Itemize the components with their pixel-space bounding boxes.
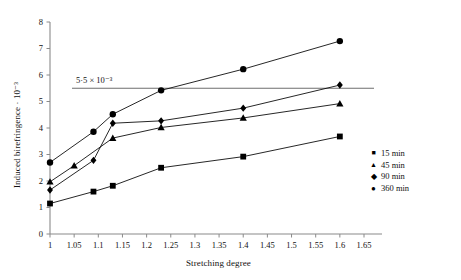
data-point-square bbox=[158, 165, 164, 171]
data-point-circle bbox=[158, 87, 164, 93]
y-axis-tick-label: 5 bbox=[29, 96, 43, 106]
diamond-marker-icon: ◆ bbox=[368, 171, 379, 183]
y-axis-tick-label: 3 bbox=[29, 149, 43, 159]
square-marker-icon: ■ bbox=[368, 148, 379, 160]
legend-item-360-min: ●360 min bbox=[368, 183, 409, 195]
data-point-circle bbox=[110, 111, 116, 117]
x-axis-tick-label: 1.65 bbox=[349, 240, 379, 250]
y-axis-tick-label: 1 bbox=[29, 202, 43, 212]
data-point-triangle bbox=[71, 162, 78, 168]
data-point-square bbox=[91, 189, 97, 195]
legend-item-45-min: ▲45 min bbox=[368, 160, 409, 172]
data-point-square bbox=[47, 201, 53, 207]
data-point-square bbox=[337, 134, 343, 140]
y-axis-title: Induced birefringence · 10⁻³ bbox=[12, 50, 22, 220]
legend-item-15-min: ■15 min bbox=[368, 148, 409, 160]
legend-item-label: 45 min bbox=[379, 160, 405, 172]
legend-item-label: 90 min bbox=[379, 171, 405, 183]
data-point-diamond bbox=[158, 117, 164, 124]
data-point-square bbox=[110, 183, 116, 189]
legend-item-90-min: ◆90 min bbox=[368, 171, 409, 183]
data-point-circle bbox=[90, 129, 96, 135]
chart-figure: Induced birefringence · 10⁻³ Stretching … bbox=[0, 0, 461, 280]
circle-marker-icon: ● bbox=[368, 183, 379, 195]
data-point-circle bbox=[337, 38, 343, 44]
series-line-360-min bbox=[50, 41, 340, 162]
data-point-diamond bbox=[91, 157, 97, 164]
reference-line-label: 5·5 × 10⁻³ bbox=[76, 75, 112, 85]
triangle-marker-icon: ▲ bbox=[368, 160, 379, 172]
y-axis-tick-label: 8 bbox=[29, 17, 43, 27]
data-point-square bbox=[240, 154, 246, 160]
y-axis-tick-label: 4 bbox=[29, 123, 43, 133]
y-axis-tick-label: 2 bbox=[29, 176, 43, 186]
x-axis-title: Stretching degree bbox=[186, 258, 251, 268]
y-axis-tick-label: 6 bbox=[29, 70, 43, 80]
legend-item-label: 15 min bbox=[379, 148, 405, 160]
data-point-diamond bbox=[110, 120, 116, 127]
y-axis-tick-label: 0 bbox=[29, 229, 43, 239]
chart-legend: ■15 min▲45 min◆90 min●360 min bbox=[368, 148, 409, 194]
data-point-diamond bbox=[47, 186, 53, 193]
data-point-diamond bbox=[240, 104, 246, 111]
chart-plot-area bbox=[0, 0, 461, 280]
data-point-diamond bbox=[337, 81, 343, 88]
y-axis-tick-label: 7 bbox=[29, 43, 43, 53]
data-point-circle bbox=[47, 159, 53, 165]
data-point-triangle bbox=[336, 100, 343, 106]
series-line-90-min bbox=[50, 85, 340, 190]
legend-item-label: 360 min bbox=[379, 183, 409, 195]
data-point-circle bbox=[240, 66, 246, 72]
